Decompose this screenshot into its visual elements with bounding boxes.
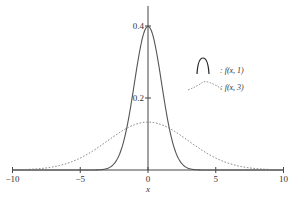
x-tick-label: 5: [214, 174, 219, 184]
legend: : f(x, 1) : f(x, 3): [188, 58, 244, 92]
y-tick-label: 0.2: [133, 93, 144, 103]
x-tick-label: −10: [5, 174, 20, 184]
x-axis-label: x: [145, 184, 150, 194]
legend-label-f3: : f(x, 3): [220, 83, 244, 92]
legend-label-f1: : f(x, 1): [220, 66, 244, 75]
x-tick-label: 10: [279, 174, 289, 184]
y-tick-label: 0.4: [133, 21, 145, 31]
legend-dotted-glyph: [188, 82, 222, 90]
normal-density-chart: −10−50510 0.20.4 x : f(x, 1) : f(x, 3): [0, 0, 291, 200]
legend-solid-glyph: [197, 58, 209, 74]
x-tick-label: −5: [75, 174, 85, 184]
x-tick-label: 0: [146, 174, 151, 184]
